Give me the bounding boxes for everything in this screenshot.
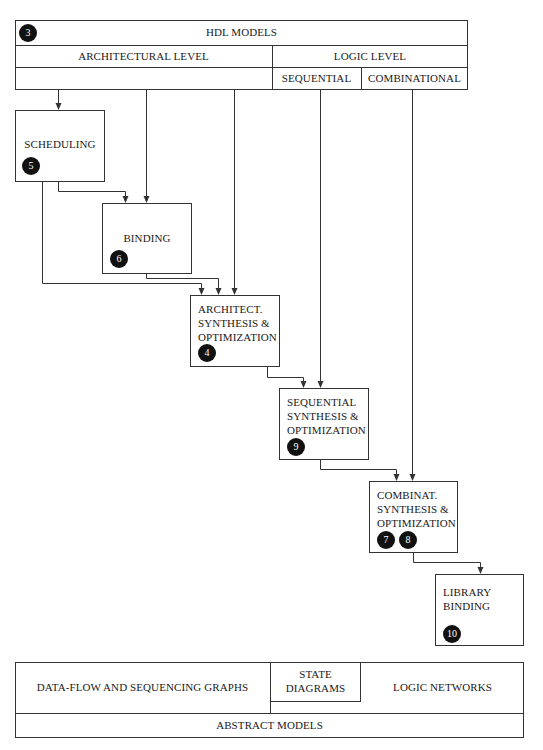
architect-line-2: SYNTHESIS &: [198, 316, 280, 330]
badge-7: 7: [377, 531, 395, 549]
badge-9: 9: [287, 438, 305, 456]
binding-label: BINDING: [103, 232, 191, 244]
badge-6: 6: [110, 250, 128, 268]
architect-label: ARCHITECT. SYNTHESIS & OPTIMIZATION: [198, 302, 280, 344]
binding-box[interactable]: BINDING 6: [102, 203, 192, 274]
architect-line-3: OPTIMIZATION: [198, 330, 280, 344]
badge-5: 5: [22, 157, 40, 175]
sequential-line-3: OPTIMIZATION: [287, 423, 369, 437]
badge-4: 4: [198, 344, 216, 362]
library-line-1: LIBRARY: [443, 585, 523, 599]
combinat-line-3: OPTIMIZATION: [377, 516, 459, 530]
combinat-line-1: COMBINAT.: [377, 488, 459, 502]
state-diagrams-line-1: STATE: [270, 667, 361, 681]
architect-line-1: ARCHITECT.: [198, 302, 280, 316]
architect-synthesis-box[interactable]: ARCHITECT. SYNTHESIS & OPTIMIZATION 4: [190, 295, 280, 367]
library-binding-box[interactable]: LIBRARY BINDING 10: [435, 574, 524, 646]
sequential-line-1: SEQUENTIAL: [287, 395, 369, 409]
abstract-models-title: ABSTRACT MODELS: [15, 719, 524, 731]
sequential-synth-label: SEQUENTIAL SYNTHESIS & OPTIMIZATION: [287, 395, 369, 437]
combinat-synthesis-box[interactable]: COMBINAT. SYNTHESIS & OPTIMIZATION 7 8: [369, 481, 458, 553]
abstract-row-divider: [15, 713, 524, 714]
library-binding-label: LIBRARY BINDING: [443, 585, 523, 613]
state-diagrams-line-2: DIAGRAMS: [270, 681, 361, 695]
sequential-synthesis-box[interactable]: SEQUENTIAL SYNTHESIS & OPTIMIZATION 9: [279, 388, 369, 460]
scheduling-box[interactable]: SCHEDULING 5: [15, 110, 105, 182]
badge-10: 10: [443, 625, 461, 643]
scheduling-label: SCHEDULING: [16, 138, 104, 150]
data-flow-label: DATA-FLOW AND SEQUENCING GRAPHS: [15, 681, 270, 693]
sequential-line-2: SYNTHESIS &: [287, 409, 369, 423]
combinat-line-2: SYNTHESIS &: [377, 502, 459, 516]
logic-networks-label: LOGIC NETWORKS: [361, 681, 524, 693]
library-line-2: BINDING: [443, 599, 523, 613]
badge-8: 8: [399, 531, 417, 549]
combinat-synth-label: COMBINAT. SYNTHESIS & OPTIMIZATION: [377, 488, 459, 530]
state-diagrams-label: STATE DIAGRAMS: [270, 667, 361, 695]
